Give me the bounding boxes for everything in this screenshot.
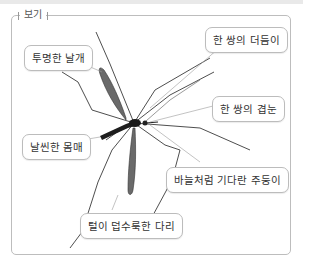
label-transparent-wings: 투명한 날개	[24, 45, 93, 71]
lower-wing-icon	[128, 128, 136, 195]
label-hairy-legs: 털이 덥수룩한 다리	[80, 213, 183, 239]
label-slender-body: 날씬한 몸매	[22, 134, 91, 160]
antenna-icon	[146, 80, 200, 121]
proboscis-icon	[146, 122, 158, 123]
thorax-icon	[129, 119, 141, 127]
label-compound-eyes: 한 쌍의 겹눈	[212, 96, 285, 122]
label-needle-proboscis: 바늘처럼 기다란 주둥이	[166, 167, 289, 193]
label-antennae: 한 쌍의 더듬이	[205, 27, 288, 53]
